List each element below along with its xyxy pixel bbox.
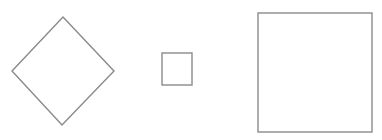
diamond-shape (12, 17, 114, 125)
large-square-shape (258, 13, 372, 132)
small-square-shape (162, 53, 192, 85)
shapes-canvas (0, 0, 382, 140)
